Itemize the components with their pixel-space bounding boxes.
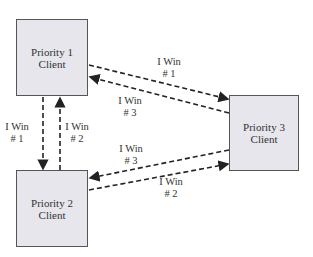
- node-label: Client: [39, 209, 66, 221]
- node-label: Client: [39, 58, 66, 70]
- node-label: Priority 1: [31, 46, 73, 58]
- edge-label-p2-p1: I Win# 2: [57, 121, 97, 145]
- node-priority-2: Priority 2 Client: [16, 170, 88, 247]
- node-label: Client: [251, 133, 278, 145]
- edge-label-p3-p2: I Win# 3: [111, 143, 151, 167]
- node-label: Priority 3: [243, 121, 285, 133]
- node-label: Priority 2: [31, 197, 73, 209]
- edge-label-p1-p3: I Win# 1: [149, 56, 189, 80]
- edge-label-p2-p3: I Win# 2: [151, 176, 191, 200]
- node-priority-1: Priority 1 Client: [16, 19, 88, 96]
- priority-diagram: Priority 1 Client Priority 2 Client Prio…: [0, 0, 313, 257]
- edge-label-p1-p2: I Win# 1: [0, 121, 37, 145]
- node-priority-3: Priority 3 Client: [229, 95, 299, 171]
- edge-label-p3-p1: I Win# 3: [110, 95, 150, 119]
